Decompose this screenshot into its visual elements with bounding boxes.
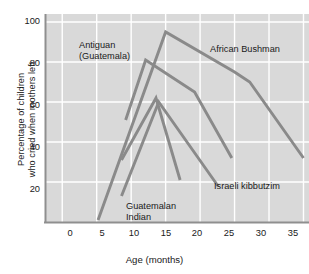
x-tick-label-10: 10 [124, 228, 144, 238]
series-label-antiguan: Antiguan (Guatemala) [79, 40, 130, 62]
x-tick-label-35: 35 [283, 228, 303, 238]
series-label-guatemalan-indian: Guatemalan Indian [126, 201, 176, 223]
line-chart-figure: 100 80 60 40 20 0 5 10 15 20 25 30 35 Pe… [0, 0, 309, 274]
x-tick-label-20: 20 [187, 228, 207, 238]
y-axis-title: Percentage of children who cried when mo… [16, 34, 39, 204]
x-tick-label-5: 5 [92, 228, 112, 238]
y-tick-label-100: 100 [14, 16, 40, 26]
series-label-african-bushman: African Bushman [210, 44, 280, 55]
x-tick-label-25: 25 [219, 228, 239, 238]
x-tick-label-30: 30 [251, 228, 271, 238]
x-axis-title: Age (months) [0, 254, 309, 265]
x-tick-label-15: 15 [156, 228, 176, 238]
x-tick-label-0: 0 [60, 228, 80, 238]
series-label-israeli-kibbutzim: Israeli kibbutzim [214, 181, 280, 192]
